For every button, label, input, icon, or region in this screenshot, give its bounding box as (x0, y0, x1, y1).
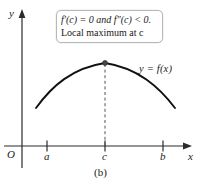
figure-caption: (b) (0, 166, 201, 178)
callout-line-1: f′(c) = 0 and f″(c) < 0. (61, 14, 162, 27)
x-axis-label: x (188, 151, 193, 162)
callout-line-2: Local maximum at c (61, 27, 162, 40)
local-maximum-point (103, 61, 108, 66)
callout-box: f′(c) = 0 and f″(c) < 0. Local maximum a… (56, 10, 163, 43)
tick-label-b: b (160, 151, 166, 162)
origin-label: O (7, 149, 15, 160)
curve-label: y = f(x) (139, 63, 172, 74)
tick-label-c: c (102, 151, 107, 162)
x-axis (4, 143, 192, 150)
calculus-figure: y x O a c b y = f(x) f′(c) = 0 and f″(c)… (0, 0, 201, 184)
y-axis (19, 9, 26, 168)
y-axis-label: y (9, 8, 14, 19)
tick-label-a: a (44, 151, 50, 162)
